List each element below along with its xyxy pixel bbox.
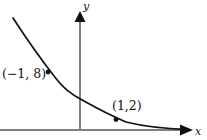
data-point-label-b: (1,2) [112,100,142,113]
data-point-label-a: (−1, 8) [2,68,46,81]
exponential-decay-figure: y x (−1, 8) (1,2) [0,0,207,140]
x-axis-label: x [195,126,201,137]
data-point-marker-a [46,70,51,75]
data-point-marker-b [114,117,119,122]
y-axis-label: y [83,1,89,12]
